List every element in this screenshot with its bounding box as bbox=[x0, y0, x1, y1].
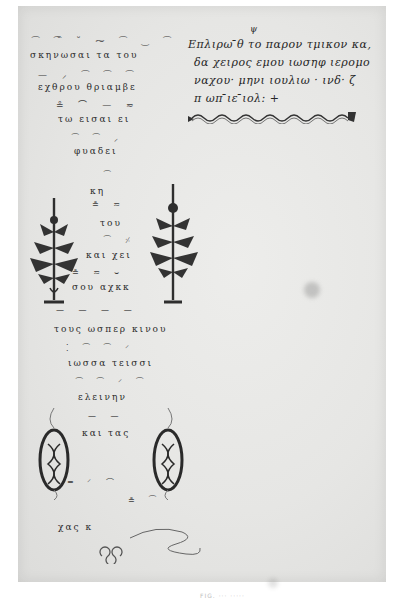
text-line: εχθρου θριαμβε bbox=[38, 82, 137, 92]
text-line: ιωσσα τεισσι bbox=[68, 358, 153, 368]
neume-row: ⁀ ⁀̆ ˘ ⁓ ⁀ ‿ ⁀ bbox=[32, 36, 177, 46]
text-line: και χει bbox=[86, 250, 132, 260]
neume-row: — ⸝ ⁀ ⁀ ⁀ bbox=[38, 68, 139, 81]
flourish-ornament bbox=[126, 522, 206, 562]
neume-row: — — bbox=[88, 412, 125, 421]
knot-ornament bbox=[94, 546, 124, 564]
text-line: τους ωσπερ κινου bbox=[54, 324, 168, 334]
colophon-superscript: ψ bbox=[250, 24, 258, 34]
colophon-line-3: ναχου· μηνι ιουλιω · ινδ· ζ bbox=[194, 74, 356, 87]
paper-stain bbox=[268, 578, 278, 588]
colophon-line-1: Επλιρω ̄θ το παρον τμικον κα, bbox=[188, 38, 371, 51]
cartouche-right bbox=[146, 404, 190, 500]
neume-row: ≗ ⌒ — ≂ bbox=[56, 98, 140, 111]
colophon-line-4: π ωπ ̄ιε ̄ιολ: + bbox=[194, 92, 279, 105]
text-line: χας κ bbox=[58, 522, 93, 532]
text-line: κη bbox=[90, 186, 105, 196]
text-line: του bbox=[100, 218, 122, 228]
wavy-line-ornament bbox=[188, 110, 358, 124]
text-line: και τας bbox=[82, 428, 130, 438]
colophon-line-2: δα χειρος εμου ιωσηφ ιερομο bbox=[194, 56, 370, 69]
text-line: ελεινην bbox=[78, 392, 127, 402]
paper-stain bbox=[304, 282, 320, 298]
manuscript-page: ψ Επλιρω ̄θ το παρον τμικον κα, δα χειρο… bbox=[18, 6, 386, 582]
figure-caption: FIG. ··· ····· bbox=[200, 592, 245, 599]
text-line: φυαδει bbox=[74, 146, 117, 156]
neume-row: ⁚ ⁀ ⁀ ⸍ bbox=[66, 342, 135, 353]
neume-row: ⁀ ⁀ ⸝ bbox=[72, 132, 124, 143]
neume-row: ⁀ bbox=[104, 171, 116, 180]
neume-row: ≗ ≂ bbox=[92, 200, 126, 209]
neume-row: ⁀ ⸓ bbox=[104, 234, 136, 245]
cartouche-left bbox=[32, 404, 76, 500]
plant-ornament-right bbox=[144, 182, 202, 308]
plant-ornament-left bbox=[26, 192, 82, 308]
text-line: τω εισαι ει bbox=[58, 114, 130, 124]
text-line: σκηνωσαι τα του bbox=[30, 50, 138, 60]
neume-row: ⁀ ⁀ ⸍ ⁀ bbox=[76, 376, 149, 387]
